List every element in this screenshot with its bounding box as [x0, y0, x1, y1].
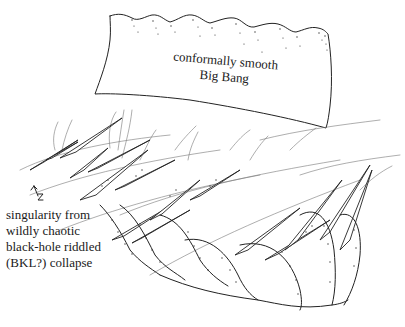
annotation-line-4: (BKL?) collapse [6, 255, 101, 271]
illustration [0, 0, 405, 327]
annotation-line-3: black-hole riddled [6, 239, 101, 255]
annotation-line-2: wildly chaotic [6, 223, 101, 239]
arrow-z-mark-icon [31, 186, 43, 200]
surface-stipple [101, 169, 356, 294]
singularity-annotation: singularity from wildly chaotic black-ho… [6, 207, 101, 271]
figure-canvas: conformally smooth Big Bang singularity … [0, 0, 405, 327]
annotation-line-1: singularity from [6, 207, 101, 223]
